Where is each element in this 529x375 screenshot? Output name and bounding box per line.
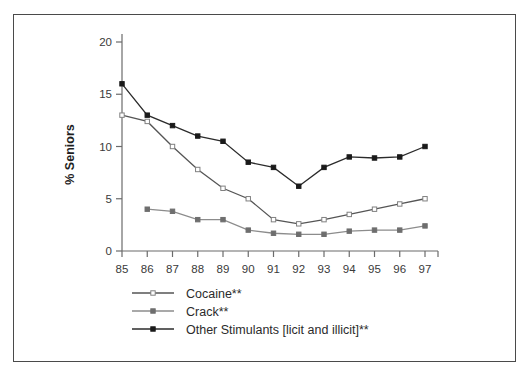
data-point-marker [322, 232, 326, 236]
data-point-marker [196, 217, 200, 221]
data-point-marker [221, 217, 225, 221]
x-tick-label: 90 [242, 263, 255, 275]
data-point-marker [423, 144, 427, 148]
x-tick-label: 87 [166, 263, 179, 275]
y-tick-label: 15 [99, 88, 112, 100]
data-point-marker [246, 197, 250, 201]
data-point-marker [347, 229, 351, 233]
data-point-marker [398, 202, 402, 206]
data-point-marker [322, 217, 326, 221]
legend-marker-swatch [151, 291, 155, 295]
series-3 [120, 82, 427, 189]
legend-item-3[interactable]: Other Stimulants [licit and illicit]** [132, 323, 369, 337]
data-point-marker [145, 207, 149, 211]
data-point-marker [347, 155, 351, 159]
data-point-marker [297, 184, 301, 188]
data-point-marker [170, 144, 174, 148]
data-point-marker [170, 209, 174, 213]
data-point-marker [120, 82, 124, 86]
data-point-marker [271, 217, 275, 221]
x-tick-label: 93 [318, 263, 331, 275]
y-tick-label: 5 [106, 193, 112, 205]
data-point-marker [297, 232, 301, 236]
legend-item-label: Cocaine** [186, 287, 242, 301]
x-axis: 85868788899091929394959697 [116, 251, 438, 275]
legend-item-label: Crack** [186, 305, 229, 319]
data-point-marker [347, 212, 351, 216]
x-tick-label: 95 [368, 263, 381, 275]
legend-item-1[interactable]: Cocaine** [132, 287, 242, 301]
data-point-marker [246, 160, 250, 164]
chart-legend: Cocaine**Crack**Other Stimulants [licit … [132, 287, 369, 337]
x-tick-label: 94 [343, 263, 356, 275]
y-tick-label: 10 [99, 141, 112, 153]
x-tick-label: 97 [419, 263, 432, 275]
data-point-marker [297, 222, 301, 226]
data-point-marker [145, 119, 149, 123]
data-point-marker [120, 113, 124, 117]
x-tick-label: 89 [217, 263, 230, 275]
data-point-marker [372, 207, 376, 211]
chart-figure: 05101520 85868788899091929394959697 % Se… [0, 0, 529, 375]
data-point-marker [170, 123, 174, 127]
data-point-marker [372, 156, 376, 160]
data-point-marker [196, 167, 200, 171]
legend-marker-swatch [151, 309, 155, 313]
series-line [122, 84, 425, 186]
data-point-marker [423, 197, 427, 201]
y-tick-label: 0 [106, 245, 112, 257]
y-axis-title: % Seniors [63, 124, 77, 184]
legend-item-2[interactable]: Crack** [132, 305, 229, 319]
data-point-marker [145, 113, 149, 117]
legend-item-label: Other Stimulants [licit and illicit]** [186, 323, 369, 337]
y-tick-label: 20 [99, 36, 112, 48]
data-point-marker [246, 228, 250, 232]
x-tick-label: 91 [267, 263, 280, 275]
chart-frame: 05101520 85868788899091929394959697 % Se… [13, 14, 516, 362]
data-point-marker [196, 134, 200, 138]
y-axis: 05101520 [99, 34, 122, 257]
x-tick-label: 92 [292, 263, 305, 275]
data-point-marker [271, 231, 275, 235]
data-point-marker [372, 228, 376, 232]
data-point-marker [271, 165, 275, 169]
data-series-group [120, 82, 427, 237]
x-tick-label: 85 [116, 263, 129, 275]
x-tick-label: 88 [191, 263, 204, 275]
legend-marker-swatch [151, 327, 155, 331]
x-tick-label: 86 [141, 263, 154, 275]
data-point-marker [423, 224, 427, 228]
data-point-marker [322, 165, 326, 169]
line-chart: 05101520 85868788899091929394959697 % Se… [14, 15, 514, 360]
x-tick-label: 96 [393, 263, 406, 275]
data-point-marker [398, 228, 402, 232]
data-point-marker [221, 139, 225, 143]
y-axis-title-text: % Seniors [63, 124, 77, 184]
data-point-marker [398, 155, 402, 159]
data-point-marker [221, 186, 225, 190]
